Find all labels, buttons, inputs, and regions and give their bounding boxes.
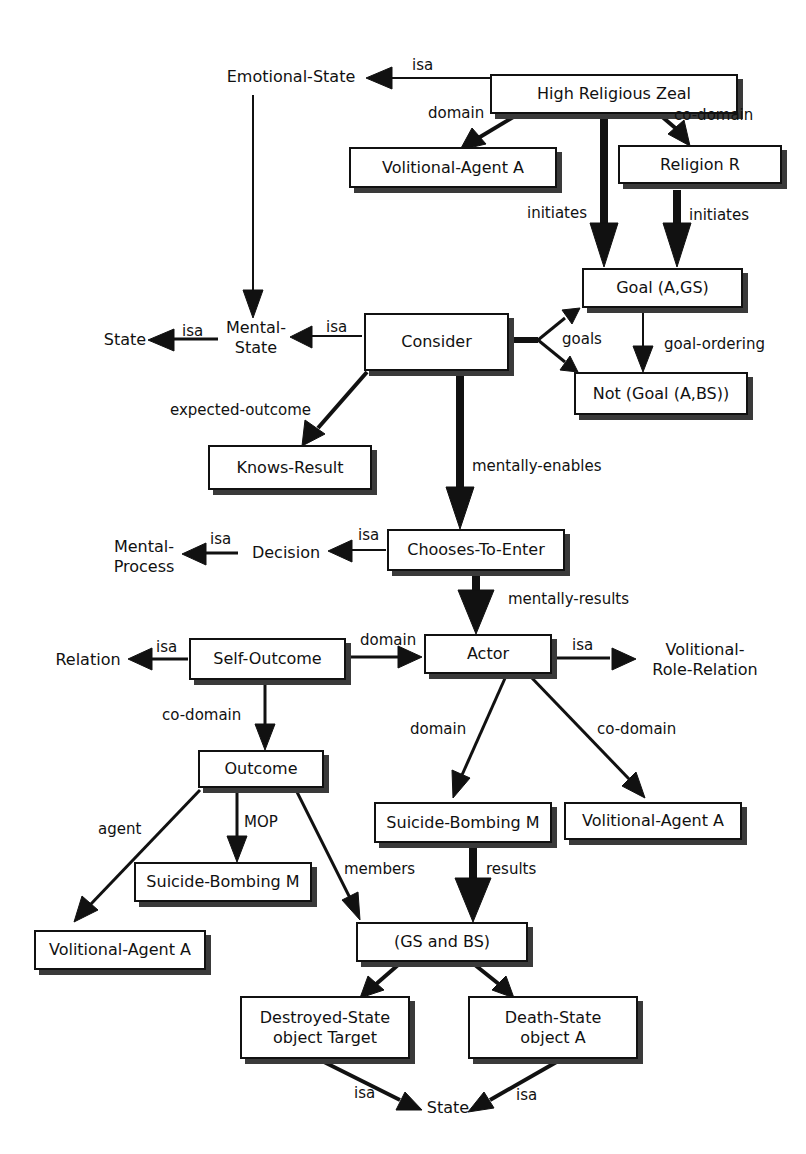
concept-mental-state: Mental- State [222,318,290,358]
node-actor[interactable]: Actor [424,634,552,674]
node-chooses-to-enter[interactable]: Chooses-To-Enter [387,529,565,571]
edge-label-co-domain: co-domain [597,720,676,738]
edge-label-mentally-enables: mentally-enables [472,457,601,475]
concept-relation: Relation [48,650,128,670]
edge-label-isa: isa [516,1086,537,1104]
edge-label-domain: domain [410,720,466,738]
edge-label-isa: isa [358,526,379,544]
node-consider[interactable]: Consider [364,313,509,371]
concept-mental-process: Mental- Process [106,537,182,577]
concept-decision: Decision [246,543,326,563]
edge-label-isa: isa [326,318,347,336]
edge-label-isa: isa [572,636,593,654]
node-volitional-agent-right[interactable]: Volitional-Agent A [564,802,742,840]
edge-label-results: results [486,860,536,878]
edge-label-isa: isa [412,56,433,74]
edge-label-initiates: initiates [689,206,749,224]
edge-label-goals: goals [562,330,602,348]
node-knows-result[interactable]: Knows-Result [208,445,372,490]
concept-volitional-role-relation: Volitional- Role-Relation [640,640,770,680]
edge-label-members: members [344,860,415,878]
concept-state-bottom: State [420,1098,476,1118]
edge-label-co-domain: co-domain [674,106,753,124]
semantic-network-diagram: High Religious Zeal Volitional-Agent A R… [0,0,806,1154]
node-destroyed-state[interactable]: Destroyed-State object Target [240,996,410,1059]
node-self-outcome[interactable]: Self-Outcome [189,638,346,680]
concept-state-top: State [100,330,150,350]
edge-label-goal-ordering: goal-ordering [664,335,765,353]
edge-label-initiates: initiates [527,204,587,222]
concept-emotional-state: Emotional-State [216,67,366,87]
edge-label-domain: domain [360,631,416,649]
edge-label-isa: isa [354,1084,375,1102]
node-religion-r[interactable]: Religion R [618,145,782,184]
edge-label-domain: domain [428,104,484,122]
edge-label-mop: MOP [244,813,278,831]
node-suicide-bombing-right[interactable]: Suicide-Bombing M [374,802,552,843]
node-gs-and-bs[interactable]: (GS and BS) [356,922,528,962]
edge-label-isa: isa [210,530,231,548]
edge-label-co-domain: co-domain [162,706,241,724]
edge-label-isa: isa [156,638,177,656]
node-death-state[interactable]: Death-State object A [468,996,638,1059]
node-not-goal-a-bs[interactable]: Not (Goal (A,BS)) [574,372,748,415]
edge-label-agent: agent [98,820,141,838]
edge-label-mentally-results: mentally-results [508,590,629,608]
edge-label-isa: isa [182,322,203,340]
node-volitional-agent-left[interactable]: Volitional-Agent A [34,930,206,970]
node-volitional-agent-top[interactable]: Volitional-Agent A [349,147,557,188]
node-outcome[interactable]: Outcome [198,750,324,788]
node-suicide-bombing-left[interactable]: Suicide-Bombing M [134,862,312,902]
edge-label-expected-outcome: expected-outcome [170,401,311,419]
node-goal-a-gs[interactable]: Goal (A,GS) [582,268,743,308]
